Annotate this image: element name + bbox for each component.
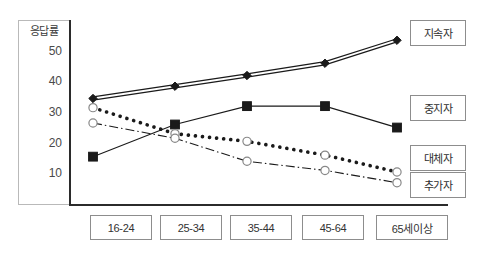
legend-item-jungjija[interactable]: 중지자 <box>410 95 466 121</box>
x-category-1[interactable]: 25-34 <box>160 215 222 240</box>
series-3 <box>89 119 401 187</box>
legend-item-daechaeja[interactable]: 대체자 <box>410 145 466 171</box>
series-1 <box>89 102 402 161</box>
series-0 <box>89 36 401 103</box>
chart-container: 응답률 50 40 30 20 10 16-24 25-34 35-44 45-… <box>0 0 478 261</box>
legend-item-chugaja[interactable]: 추가자 <box>410 172 466 198</box>
x-category-4[interactable]: 65세이상 <box>376 215 448 240</box>
legend-item-jisokja[interactable]: 지속자 <box>410 20 466 46</box>
x-category-3[interactable]: 45-64 <box>302 215 364 240</box>
x-category-2[interactable]: 35-44 <box>230 215 292 240</box>
x-category-0[interactable]: 16-24 <box>90 215 152 240</box>
